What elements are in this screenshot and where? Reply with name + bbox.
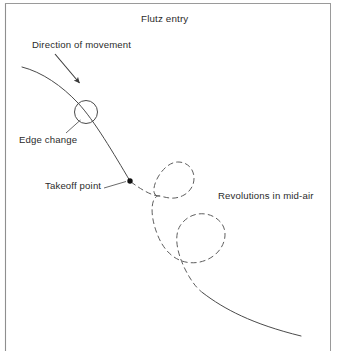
- edge-change-leader-line: [66, 120, 81, 133]
- diagram-canvas: [0, 0, 340, 351]
- direction-arrow: [55, 54, 80, 83]
- figure-title: Flutz entry: [141, 13, 188, 24]
- direction-of-movement-label: Direction of movement: [32, 39, 131, 50]
- revolutions-in-mid-air-label: Revolutions in mid-air: [218, 190, 314, 201]
- mid-air-dashed-path: [131, 162, 225, 293]
- takeoff-point-marker: [127, 178, 132, 183]
- edge-change-label: Edge change: [19, 134, 77, 145]
- flutz-entry-figure: Flutz entry Direction of movement Edge c…: [0, 0, 340, 351]
- takeoff-point-label: Takeoff point: [45, 180, 101, 191]
- exit-curve: [203, 293, 301, 336]
- takeoff-point-leader-line: [104, 182, 126, 189]
